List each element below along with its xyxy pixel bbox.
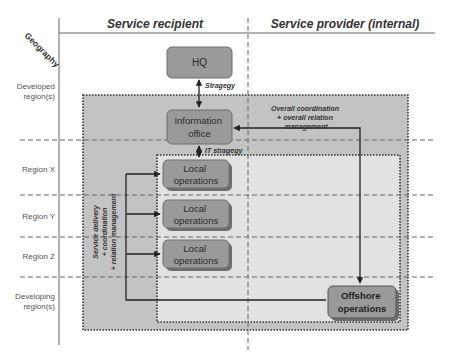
service-delivery-label-line1: Service delivery	[92, 204, 100, 258]
row-label-region-x: Region X	[22, 165, 56, 174]
column-header-recipient: Service recipient	[107, 17, 204, 31]
geography-axis-label: Geography	[23, 30, 62, 69]
row-label-region-z: Region Z	[23, 252, 56, 261]
node-hq-label: HQ	[192, 57, 207, 68]
row-label-developing: Developingregion(s)	[15, 292, 55, 311]
node-information-office[interactable]: Information office	[167, 110, 232, 144]
node-hq[interactable]: HQ	[167, 47, 232, 78]
service-delivery-label-line3: + relation management	[110, 193, 118, 270]
node-local-operations-z[interactable]: Local operations	[163, 240, 232, 271]
row-label-developed: Developedregion(s)	[17, 82, 56, 101]
node-offshore-operations[interactable]: Offshore operations	[328, 286, 399, 321]
it-strategy-label: IT stragegy	[205, 147, 243, 155]
node-local-operations-x[interactable]: Local operations	[163, 160, 232, 191]
node-local-operations-y[interactable]: Local operations	[163, 200, 232, 231]
diagram: Service recipient Service provider (inte…	[0, 0, 450, 360]
column-header-provider: Service provider (internal)	[271, 17, 420, 31]
service-delivery-label-line2: + coordination	[101, 208, 108, 256]
strategy-label: Stragegy	[205, 82, 236, 90]
row-label-region-y: Region Y	[22, 212, 55, 221]
